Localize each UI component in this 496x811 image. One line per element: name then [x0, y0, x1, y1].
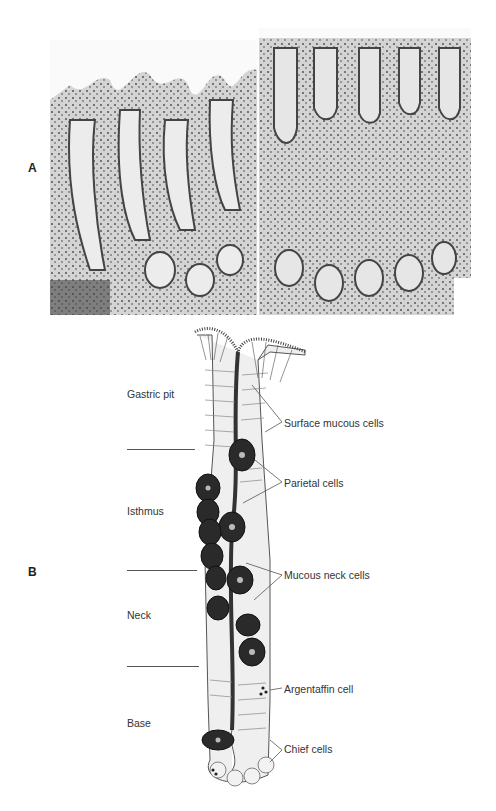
region-label-base: Base [127, 717, 151, 729]
region-label-gastric-pit: Gastric pit [127, 388, 174, 400]
divider-pit-isthmus [127, 449, 195, 450]
region-label-isthmus: Isthmus [127, 505, 164, 517]
callout-chief-cells: Chief cells [284, 743, 332, 755]
micrograph-left [50, 40, 257, 315]
callout-parietal-cells: Parietal cells [284, 477, 344, 489]
divider-neck-base [127, 666, 199, 667]
divider-isthmus-neck [127, 570, 197, 571]
panel-b-label: B [28, 565, 37, 579]
panel-a-label: A [28, 161, 37, 175]
region-label-neck: Neck [127, 609, 151, 621]
callout-surface-mucous-cells: Surface mucous cells [284, 417, 384, 429]
callout-argentaffin-cell: Argentaffin cell [284, 683, 353, 695]
micrograph-right [259, 28, 471, 315]
micrograph-left-texture [50, 40, 257, 315]
callout-mucous-neck-cells: Mucous neck cells [284, 569, 370, 581]
micrograph-right-texture [259, 28, 471, 315]
